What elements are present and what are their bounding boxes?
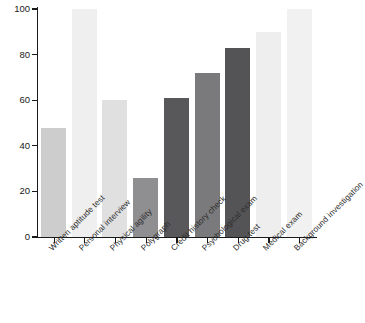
bar-medical-exam[interactable] xyxy=(256,32,281,237)
y-tick-label: 80 xyxy=(0,50,30,60)
bar-background-investigation[interactable] xyxy=(287,9,312,237)
y-tick-label: 60 xyxy=(0,95,30,105)
y-tick-label: 0 xyxy=(0,232,30,242)
bar-written-aptitude-test[interactable] xyxy=(41,128,66,237)
y-tick-label: 40 xyxy=(0,141,30,151)
y-tick-label: 100 xyxy=(0,4,30,14)
bar-credit-history-check[interactable] xyxy=(164,98,189,237)
y-tick-label: 20 xyxy=(0,186,30,196)
plot-area xyxy=(38,9,316,237)
